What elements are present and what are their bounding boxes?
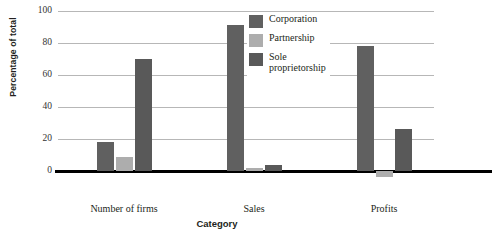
chart-legend: CorporationPartnershipSole proprietorshi… <box>247 12 330 76</box>
y-axis-tick-label: 60 <box>18 70 52 80</box>
gridline <box>58 43 434 44</box>
y-axis-title: Percentage of total <box>8 2 18 112</box>
gridline <box>58 139 434 140</box>
plot-area: 020406080100 <box>58 11 434 187</box>
bar <box>246 168 263 171</box>
gridline <box>58 107 434 108</box>
gridline <box>58 11 434 12</box>
legend-item-label: Partnership <box>269 33 315 44</box>
legend-item: Sole proprietorship <box>249 52 326 73</box>
x-axis-tick-label: Sales <box>184 203 324 214</box>
legend-item-label: Corporation <box>269 14 317 25</box>
y-axis-tick-label: 0 <box>18 166 52 176</box>
x-axis-tick-label: Number of firms <box>54 203 194 214</box>
y-axis-tick-label: 40 <box>18 102 52 112</box>
legend-swatch-icon <box>249 53 263 66</box>
y-axis-tick-label: 80 <box>18 38 52 48</box>
bar <box>116 157 133 171</box>
bar <box>135 59 152 171</box>
bar <box>97 142 114 171</box>
y-axis-tick-label: 100 <box>18 6 52 16</box>
bar <box>265 165 282 171</box>
y-axis-tick-label: 20 <box>18 134 52 144</box>
legend-item: Corporation <box>249 14 326 28</box>
bar <box>376 171 393 177</box>
bar <box>227 25 244 171</box>
bar <box>357 46 374 171</box>
gridline <box>58 75 434 76</box>
bar <box>395 129 412 171</box>
x-axis-title: Category <box>0 218 434 229</box>
legend-item: Partnership <box>249 33 326 47</box>
chart-title <box>0 0 434 3</box>
x-axis-tick-label: Profits <box>314 203 454 214</box>
legend-swatch-icon <box>249 34 263 47</box>
legend-swatch-icon <box>249 15 263 28</box>
legend-item-label: Sole proprietorship <box>269 52 326 73</box>
